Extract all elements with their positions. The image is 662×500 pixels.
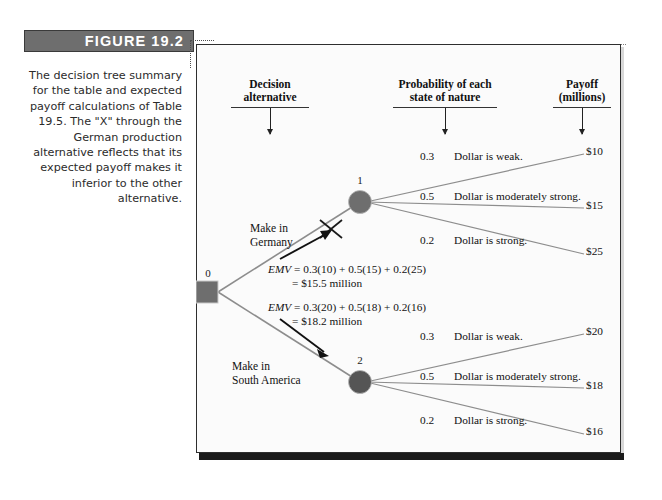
chance-node-1-number: 1 — [349, 174, 371, 186]
state-row-upper-weak: 0.3Dollar is weak. — [420, 150, 523, 162]
state-lower-strong: Dollar is strong. — [454, 414, 527, 426]
payoff-upper-moderate: $15 — [586, 199, 603, 211]
probability-upper-weak: 0.3 — [420, 150, 454, 162]
alternative-south-line1: Make in — [232, 360, 301, 374]
chance-node-2-number: 2 — [349, 354, 371, 366]
emv-south-result: = $18.2 million — [268, 314, 426, 328]
decision-node-number: 0 — [197, 267, 219, 279]
state-row-upper-strong: 0.2Dollar is strong. — [420, 234, 527, 246]
probability-lower-moderate: 0.5 — [420, 370, 454, 382]
state-row-upper-moderate: 0.5Dollar is moderately strong. — [420, 190, 581, 202]
emv-germany-result: = $15.5 million — [268, 276, 426, 290]
figure-title-bar: FIGURE 19.2 — [24, 30, 194, 52]
branch-lower-moderate — [366, 382, 584, 388]
emv-germany-expression: = 0.3(10) + 0.5(15) + 0.2(25) — [291, 263, 426, 275]
emv-south-label: EMV — [268, 301, 291, 313]
alternative-label-south-america: Make in South America — [232, 360, 301, 387]
chance-node-circle-2 — [349, 371, 372, 394]
probability-lower-weak: 0.3 — [420, 330, 454, 342]
chance-node-circle-1 — [349, 191, 372, 214]
leader-line-horizontal — [190, 40, 214, 41]
alternative-germany-line2: Germany — [250, 236, 293, 250]
state-lower-weak: Dollar is weak. — [454, 330, 523, 342]
probability-lower-strong: 0.2 — [420, 414, 454, 426]
emv-germany-label: EMV — [268, 263, 291, 275]
state-upper-strong: Dollar is strong. — [454, 234, 527, 246]
state-row-lower-moderate: 0.5Dollar is moderately strong. — [420, 370, 581, 382]
emv-south-expression: = 0.3(20) + 0.5(18) + 0.2(16) — [291, 301, 426, 313]
figure-caption: The decision tree summary for the table … — [14, 68, 182, 207]
alternative-south-line2: South America — [232, 374, 301, 388]
probability-upper-strong: 0.2 — [420, 234, 454, 246]
state-upper-weak: Dollar is weak. — [454, 150, 523, 162]
state-row-lower-weak: 0.3Dollar is weak. — [420, 330, 523, 342]
emv-germany: EMV = 0.3(10) + 0.5(15) + 0.2(25) = $15.… — [268, 262, 426, 290]
payoff-lower-strong: $16 — [586, 425, 603, 437]
alternative-germany-line1: Make in — [250, 222, 293, 236]
emv-south-america: EMV = 0.3(20) + 0.5(18) + 0.2(16) = $18.… — [268, 300, 426, 328]
branch-lower-strong — [366, 382, 584, 434]
figure-page: FIGURE 19.2 The decision tree summary fo… — [0, 0, 662, 500]
payoff-upper-strong: $25 — [586, 245, 603, 257]
payoff-lower-moderate: $18 — [586, 379, 603, 391]
state-lower-moderate: Dollar is moderately strong. — [454, 370, 581, 382]
branch-upper-strong — [366, 202, 584, 254]
payoff-upper-weak: $10 — [586, 145, 603, 157]
state-upper-moderate: Dollar is moderately strong. — [454, 190, 581, 202]
branch-upper-moderate — [366, 202, 584, 208]
state-row-lower-strong: 0.2Dollar is strong. — [420, 414, 527, 426]
alternative-label-germany: Make in Germany — [250, 222, 293, 249]
frame-shadow-bottom — [199, 453, 624, 460]
figure-number-label: FIGURE 19.2 — [85, 33, 193, 49]
payoff-lower-weak: $20 — [586, 325, 603, 337]
probability-upper-moderate: 0.5 — [420, 190, 454, 202]
decision-node-square — [196, 281, 218, 303]
leader-line-vertical — [190, 40, 191, 68]
